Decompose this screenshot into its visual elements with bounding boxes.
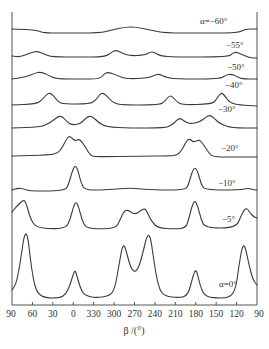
series-label: −55°: [226, 40, 244, 50]
x-tick-label: 120: [229, 309, 244, 319]
x-tick-label: 180: [189, 309, 204, 319]
x-tick-label: 300: [107, 309, 122, 319]
x-tick-label: 90: [254, 309, 264, 319]
x-axis-label: β /(°): [123, 325, 144, 337]
curves: [12, 27, 257, 298]
curve-60-deg: [12, 27, 257, 33]
spectra-chart: 906030033030027024021018015012090 α=−60°…: [0, 0, 269, 349]
x-tick-label: 0: [71, 309, 76, 319]
series-label: −5°: [222, 214, 236, 224]
series-label: −40°: [225, 80, 243, 90]
series-label: α=0°: [219, 279, 237, 289]
x-tick-label: 30: [48, 309, 58, 319]
x-tick-label: 90: [6, 309, 16, 319]
series-label: −10°: [218, 178, 236, 188]
curve-55-deg: [12, 51, 257, 58]
x-tick-label: 60: [28, 309, 38, 319]
x-tick-label: 150: [209, 309, 224, 319]
curve-30-deg: [12, 116, 257, 128]
x-tick-label: 240: [148, 309, 163, 319]
series-label: −30°: [218, 104, 236, 114]
x-tick-label: 210: [168, 309, 183, 319]
x-tick-label: 270: [127, 309, 142, 319]
series-label: α=−60°: [200, 16, 228, 26]
series-label: −50°: [227, 62, 245, 72]
series-label: −20°: [221, 143, 239, 153]
curve-5-deg: [12, 201, 257, 229]
curve-50-deg: [12, 72, 257, 79]
x-tick-label: 330: [87, 309, 102, 319]
